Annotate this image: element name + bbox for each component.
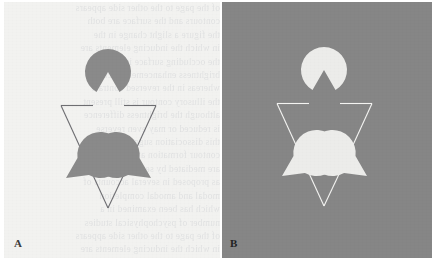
inducer-top-disc (301, 47, 347, 90)
inducer-group-b (282, 47, 367, 176)
outline-edge-left-upper (61, 106, 80, 148)
panel-a: of the page to the other side appears co… (4, 2, 220, 258)
figure-root: of the page to the other side appears co… (0, 0, 440, 276)
panel-label-b: B (230, 238, 238, 249)
panel-b: B (222, 2, 432, 258)
inducer-bottom-right-disc (310, 130, 367, 176)
kanizsa-stimulus-a (4, 2, 220, 258)
inducer-group-a (66, 49, 151, 178)
outline-edge-right-upper (137, 106, 156, 148)
outline-edge-left-upper (277, 104, 296, 146)
inducer-top-disc (85, 49, 131, 92)
panel-label-a: A (14, 238, 22, 249)
outline-edge-right-upper (353, 104, 372, 146)
inducer-bottom-right-disc (94, 132, 151, 178)
kanizsa-stimulus-b (222, 2, 432, 258)
